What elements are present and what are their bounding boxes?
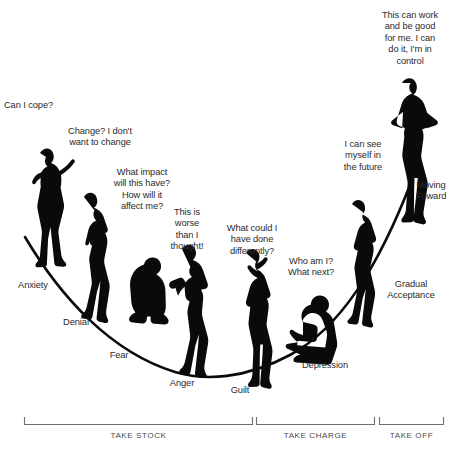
thought-who-am-i: Who am I? What next? [280, 256, 342, 279]
thought-done-differently: What could I have done differently? [215, 223, 289, 257]
stage-label-anger: Anger [161, 378, 203, 389]
change-curve-diagram: Can I cope? Change? I don't want to chan… [0, 0, 461, 458]
anxiety-figure [32, 149, 75, 268]
stage-label-depression: Depression [294, 360, 356, 371]
guilt-figure [246, 249, 273, 389]
thought-see-myself-future: I can see myself in the future [334, 139, 392, 173]
phase-label-take-stock: TAKE STOCK [24, 431, 253, 440]
moving-foward-figure [391, 78, 438, 224]
acceptance-figure [347, 200, 376, 328]
phase-brackets [25, 417, 444, 425]
stage-label-denial: Denial [52, 317, 100, 328]
anger-figure [169, 245, 208, 378]
bracket-take-charge [257, 417, 375, 425]
thought-worse-than-thought: This is worse than I thought! [163, 207, 211, 253]
bracket-take-stock [25, 417, 253, 425]
stage-label-moving-foward: Moving Foward [406, 180, 456, 202]
stage-label-anxiety: Anxiety [8, 280, 58, 291]
bracket-take-off [380, 417, 444, 425]
thought-this-can-work: This can work and be good for me. I can … [374, 10, 446, 67]
stage-label-gradual-acceptance: Gradual Acceptance [378, 279, 444, 301]
thought-change-resist: Change? I don't want to change [48, 126, 152, 149]
phase-label-take-off: TAKE OFF [379, 431, 444, 440]
thought-what-impact: What impact will this have? How will it … [104, 167, 180, 213]
stage-label-fear: Fear [101, 350, 137, 361]
phase-label-take-charge: TAKE CHARGE [256, 431, 375, 440]
fear-figure [129, 258, 169, 325]
change-curve-line [25, 180, 412, 377]
thought-can-i-cope: Can I cope? [4, 100, 94, 111]
stage-label-guilt: Guilt [222, 385, 258, 396]
